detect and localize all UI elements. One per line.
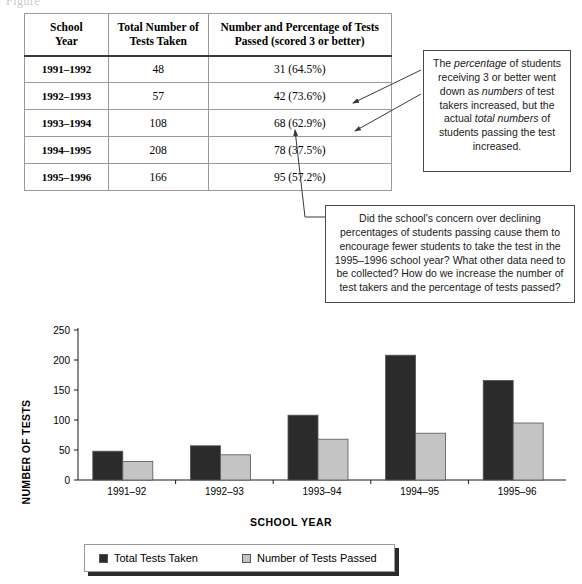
- cell-total-taken: 48: [108, 56, 208, 83]
- cell-passed: 95 (57.2%): [208, 164, 391, 191]
- header-line: School: [29, 20, 104, 34]
- callout-right-text: The percentage of students receiving 3 o…: [433, 57, 561, 152]
- y-tick-label: 0: [36, 475, 70, 486]
- callout-box-percentage-note: The percentage of students receiving 3 o…: [423, 50, 571, 172]
- y-tick-label: 50: [36, 445, 70, 456]
- cell-total-taken: 208: [108, 137, 208, 164]
- bar-total-taken: [288, 415, 318, 480]
- figure-page: Figure School Year Total Number of Tests…: [0, 0, 582, 584]
- x-tick-label: 1993–94: [303, 486, 342, 497]
- table-row: 1994–1995 208 78 (37.5%): [25, 137, 392, 164]
- bar-tests-passed: [416, 433, 446, 480]
- table-header-row: School Year Total Number of Tests Taken …: [25, 14, 392, 56]
- cell-total-taken: 166: [108, 164, 208, 191]
- legend-item-total-tests-taken: Total Tests Taken: [99, 552, 198, 564]
- x-tick-label: 1994–95: [400, 486, 439, 497]
- cell-school-year: 1991–1992: [25, 56, 109, 83]
- cell-total-taken: 57: [108, 83, 208, 110]
- bar-tests-passed: [123, 461, 153, 480]
- x-tick-label: 1991–92: [107, 486, 146, 497]
- cell-school-year: 1994–1995: [25, 137, 109, 164]
- bar-total-taken: [190, 446, 220, 480]
- results-table-container: School Year Total Number of Tests Taken …: [24, 13, 392, 191]
- header-line: Passed (scored 3 or better): [213, 34, 387, 48]
- cell-school-year: 1992–1993: [25, 83, 109, 110]
- results-table: School Year Total Number of Tests Taken …: [24, 13, 392, 191]
- legend-swatch-black: [99, 554, 108, 563]
- callout-bottom-text: Did the school's concern over declining …: [335, 212, 566, 293]
- bar-tests-passed: [220, 455, 250, 480]
- cell-passed: 78 (37.5%): [208, 137, 391, 164]
- bar-total-taken: [483, 380, 513, 480]
- callout-box-question-note: Did the school's concern over declining …: [325, 205, 575, 303]
- cell-passed: 31 (64.5%): [208, 56, 391, 83]
- cell-total-taken: 108: [108, 110, 208, 137]
- cell-passed: 68 (62.9%): [208, 110, 391, 137]
- chart-legend: Total Tests Taken Number of Tests Passed: [84, 544, 395, 572]
- header-line: Tests Taken: [113, 34, 204, 48]
- cut-off-caption-sliver: Figure: [6, 0, 40, 9]
- cell-passed: 42 (73.6%): [208, 83, 391, 110]
- table-header-school-year: School Year: [25, 14, 109, 56]
- y-tick-label: 200: [36, 355, 70, 366]
- header-line: Number and Percentage of Tests: [213, 20, 387, 34]
- header-line: Year: [29, 34, 104, 48]
- bar-total-taken: [93, 451, 123, 480]
- legend-item-tests-passed: Number of Tests Passed: [242, 552, 377, 564]
- header-line: Total Number of: [113, 20, 204, 34]
- table-row: 1991–1992 48 31 (64.5%): [25, 56, 392, 83]
- table-header-total-tests-taken: Total Number of Tests Taken: [108, 14, 208, 56]
- bar-tests-passed: [513, 423, 543, 480]
- legend-label: Number of Tests Passed: [257, 552, 377, 564]
- plot-area: [0, 318, 582, 518]
- y-tick-label: 250: [36, 325, 70, 336]
- x-tick-label: 1995–96: [498, 486, 537, 497]
- y-tick-label: 150: [36, 385, 70, 396]
- table-row: 1995–1996 166 95 (57.2%): [25, 164, 392, 191]
- table-row: 1993–1994 108 68 (62.9%): [25, 110, 392, 137]
- table-header-tests-passed: Number and Percentage of Tests Passed (s…: [208, 14, 391, 56]
- cell-school-year: 1995–1996: [25, 164, 109, 191]
- legend-swatch-gray: [242, 554, 251, 563]
- table-row: 1992–1993 57 42 (73.6%): [25, 83, 392, 110]
- x-axis-title: SCHOOL YEAR: [0, 516, 582, 528]
- y-tick-label: 100: [36, 415, 70, 426]
- cell-school-year: 1993–1994: [25, 110, 109, 137]
- y-axis-title: NUMBER OF TESTS: [20, 382, 32, 522]
- legend-label: Total Tests Taken: [114, 552, 198, 564]
- x-tick-label: 1992–93: [205, 486, 244, 497]
- table-body: 1991–1992 48 31 (64.5%) 1992–1993 57 42 …: [25, 56, 392, 191]
- bar-tests-passed: [318, 439, 348, 480]
- bar-total-taken: [386, 355, 416, 480]
